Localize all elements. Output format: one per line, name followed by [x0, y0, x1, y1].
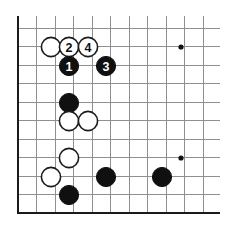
stone-black[interactable] — [59, 93, 78, 112]
move-number-label: 4 — [85, 41, 92, 55]
black-stone-icon — [96, 167, 115, 186]
stone-white[interactable] — [41, 167, 60, 186]
white-stone-icon — [41, 37, 60, 56]
stone-white-2[interactable]: 2 — [59, 37, 78, 56]
stone-black[interactable] — [59, 185, 78, 204]
stone-white[interactable] — [78, 111, 97, 130]
stone-white[interactable] — [59, 148, 78, 167]
white-stone-icon — [78, 111, 97, 130]
stone-white[interactable] — [41, 37, 60, 56]
stones-layer[interactable]: 2413 — [41, 37, 171, 204]
stone-white[interactable] — [59, 111, 78, 130]
white-stone-icon — [41, 167, 60, 186]
stone-black-3[interactable]: 3 — [96, 56, 115, 75]
go-diagram-figure: 2413 — [0, 0, 251, 233]
move-number-label: 3 — [103, 60, 110, 74]
black-stone-icon — [59, 185, 78, 204]
white-stone-icon — [59, 148, 78, 167]
go-board[interactable]: 2413 — [0, 0, 251, 233]
move-number-label: 1 — [66, 60, 73, 74]
star-point-upper-right-icon — [178, 44, 183, 49]
stone-black[interactable] — [96, 167, 115, 186]
star-point-lower-right-icon — [178, 155, 183, 160]
stone-black-1[interactable]: 1 — [59, 56, 78, 75]
black-stone-icon — [59, 93, 78, 112]
stone-black[interactable] — [152, 167, 171, 186]
move-number-label: 2 — [66, 41, 73, 55]
stone-white-4[interactable]: 4 — [78, 37, 97, 56]
white-stone-icon — [59, 111, 78, 130]
black-stone-icon — [152, 167, 171, 186]
